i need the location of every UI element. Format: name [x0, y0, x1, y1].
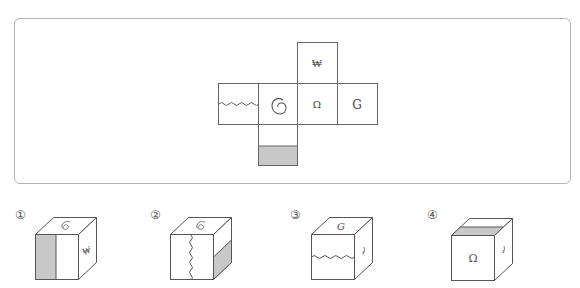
option-1-cube[interactable]: ₩ [35, 218, 97, 280]
omega-symbol: Ω [313, 99, 321, 110]
wavy-line-icon [219, 103, 259, 106]
omega-symbol: Ω [468, 252, 477, 265]
g-symbol: G [337, 221, 345, 232]
option-3-label[interactable]: ③ [290, 208, 301, 222]
option-4-label[interactable]: ④ [427, 208, 438, 222]
option-2-cube[interactable] [171, 218, 232, 281]
option-3-cube[interactable]: G [312, 218, 373, 280]
spiral-icon [272, 98, 286, 114]
option-2-label[interactable]: ② [150, 208, 161, 222]
option-1-label[interactable]: ① [15, 208, 26, 222]
g-symbol: G [352, 98, 362, 112]
net-shade [259, 146, 297, 165]
diagram-canvas: ₩ Ω G ₩ G Ω [0, 0, 580, 288]
won-symbol: ₩ [312, 57, 323, 70]
option-4-cube[interactable]: Ω [452, 219, 513, 281]
